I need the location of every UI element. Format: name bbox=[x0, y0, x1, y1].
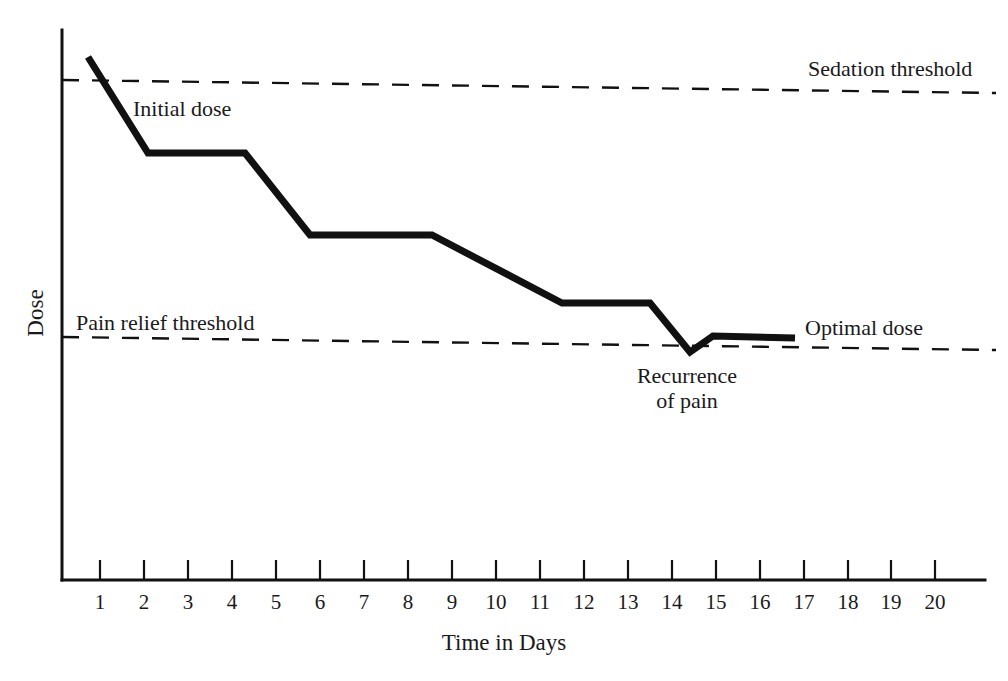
x-axis-title: Time in Days bbox=[0, 630, 1008, 656]
sedation-threshold-line bbox=[62, 80, 996, 93]
x-tick-label-3: 3 bbox=[173, 592, 203, 613]
x-tick-label-7: 7 bbox=[349, 592, 379, 613]
x-tick-label-11: 11 bbox=[525, 592, 555, 613]
x-tick-label-6: 6 bbox=[305, 592, 335, 613]
x-tick-label-17: 17 bbox=[789, 592, 819, 613]
dose-titration-chart: 1 2 3 4 5 6 7 8 9 10 11 12 13 14 15 16 1… bbox=[0, 0, 1008, 681]
x-tick-label-14: 14 bbox=[657, 592, 687, 613]
annotation-recurrence-of-pain: Recurrence of pain bbox=[617, 364, 757, 413]
annotation-pain-relief-threshold: Pain relief threshold bbox=[76, 311, 254, 336]
x-tick-label-10: 10 bbox=[481, 592, 511, 613]
x-tick-label-9: 9 bbox=[437, 592, 467, 613]
x-tick-label-4: 4 bbox=[217, 592, 247, 613]
x-tick-label-2: 2 bbox=[129, 592, 159, 613]
recurrence-line-1: Recurrence bbox=[637, 363, 737, 388]
x-tick-label-20: 20 bbox=[920, 592, 950, 613]
x-tick-label-19: 19 bbox=[876, 592, 906, 613]
x-tick-label-15: 15 bbox=[701, 592, 731, 613]
x-tick-label-13: 13 bbox=[613, 592, 643, 613]
recurrence-line-2: of pain bbox=[656, 388, 718, 413]
x-tick-label-18: 18 bbox=[833, 592, 863, 613]
x-tick-label-5: 5 bbox=[261, 592, 291, 613]
annotation-sedation-threshold: Sedation threshold bbox=[808, 57, 972, 82]
annotation-optimal-dose: Optimal dose bbox=[805, 316, 923, 341]
x-axis-ticks bbox=[100, 560, 935, 580]
x-tick-label-12: 12 bbox=[569, 592, 599, 613]
x-tick-label-16: 16 bbox=[745, 592, 775, 613]
y-axis-title: Dose bbox=[23, 273, 49, 353]
annotation-initial-dose: Initial dose bbox=[133, 97, 231, 122]
x-tick-label-8: 8 bbox=[393, 592, 423, 613]
x-tick-label-1: 1 bbox=[85, 592, 115, 613]
